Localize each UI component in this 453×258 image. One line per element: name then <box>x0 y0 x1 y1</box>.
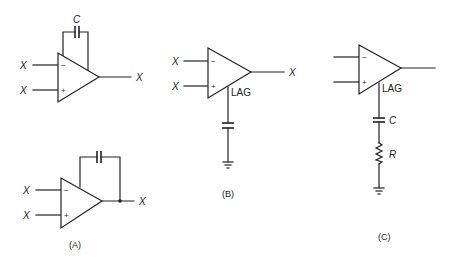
caption-b: (B) <box>222 189 234 199</box>
opamp-c: − + LAG C R <box>334 45 435 194</box>
lag-label: LAG <box>382 83 402 94</box>
plus-sign: + <box>64 211 69 220</box>
opamp-a-top: − + X X X C <box>19 14 143 102</box>
input-label: X <box>171 56 179 67</box>
output-label: X <box>288 67 296 78</box>
caption-a: (A) <box>69 240 81 250</box>
capacitor-label: C <box>389 115 397 126</box>
plus-sign: + <box>362 78 367 87</box>
resistor-label: R <box>389 149 396 160</box>
feedback-wire <box>79 32 88 70</box>
minus-sign: − <box>61 61 66 70</box>
input-label: X <box>22 185 30 196</box>
input-label: X <box>22 210 30 221</box>
minus-sign: − <box>362 53 367 62</box>
feedback-wire <box>80 157 97 187</box>
minus-sign: − <box>211 57 216 66</box>
output-label: X <box>135 72 143 83</box>
lag-label: LAG <box>231 87 251 98</box>
resistor-icon <box>376 143 382 164</box>
input-label: X <box>19 85 27 96</box>
feedback-wire <box>63 32 75 56</box>
plus-sign: + <box>61 86 66 95</box>
opamp-a-bottom: − + X X X <box>22 151 146 228</box>
minus-sign: − <box>64 186 69 195</box>
input-label: X <box>171 81 179 92</box>
output-label: X <box>138 196 146 207</box>
ground-icon <box>374 188 384 194</box>
circuit-diagram: − + X X X C − + X X X (A) <box>0 0 453 258</box>
feedback-wire <box>101 157 120 201</box>
ground-icon <box>223 162 233 168</box>
input-label: X <box>19 60 27 71</box>
junction-dot <box>118 199 122 203</box>
plus-sign: + <box>211 82 216 91</box>
opamp-b: − + X X X LAG <box>171 48 296 168</box>
capacitor-label: C <box>73 14 81 25</box>
caption-c: (C) <box>378 232 391 242</box>
